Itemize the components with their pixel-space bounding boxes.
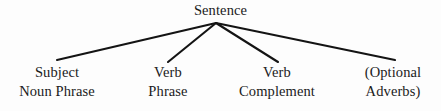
leaf-node-verb-complement: Verb Complement xyxy=(239,63,315,100)
leaf-node-subject-noun-phrase: Subject Noun Phrase xyxy=(19,63,95,100)
branch-to-optional-adverbs xyxy=(216,23,395,60)
root-node-label: Sentence xyxy=(194,2,247,18)
leaf-label-line-1: Verb xyxy=(148,63,187,82)
leaf-label-line-1: Subject xyxy=(19,63,95,82)
root-node-sentence: Sentence xyxy=(0,1,441,20)
leaf-node-optional-adverbs: (Optional Adverbs) xyxy=(365,63,421,100)
leaf-label-line-1: Verb xyxy=(239,63,315,82)
leaf-label-line-2: Phrase xyxy=(148,82,187,101)
leaf-label-line-2: Complement xyxy=(239,82,315,101)
leaf-node-verb-phrase: Verb Phrase xyxy=(148,63,187,100)
leaf-label-line-2: Adverbs) xyxy=(365,82,421,101)
syntax-tree-diagram: Sentence Subject Noun Phrase Verb Phrase… xyxy=(0,0,441,111)
leaf-label-line-2: Noun Phrase xyxy=(19,82,95,101)
leaf-label-line-1: (Optional xyxy=(365,63,421,82)
